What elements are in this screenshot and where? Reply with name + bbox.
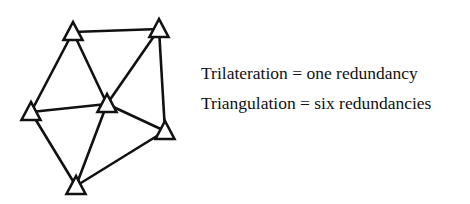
survey-network-diagram bbox=[0, 0, 200, 204]
edge-D-F bbox=[76, 104, 107, 186]
edge-B-E bbox=[159, 29, 165, 131]
trilateration-caption: Trilateration = one redundancy bbox=[201, 63, 418, 84]
edge-C-D bbox=[31, 104, 107, 112]
station-triangle-icon bbox=[156, 121, 175, 139]
edge-B-D bbox=[107, 29, 159, 104]
station-triangle-icon bbox=[98, 94, 117, 112]
edge-E-F bbox=[76, 131, 165, 186]
network-edges bbox=[31, 29, 165, 186]
edge-A-B bbox=[73, 29, 159, 32]
station-triangle-icon bbox=[67, 176, 86, 194]
station-triangles bbox=[22, 19, 175, 194]
triangulation-caption: Triangulation = six redundancies bbox=[201, 93, 431, 114]
edge-A-C bbox=[31, 32, 73, 112]
edge-C-F bbox=[31, 112, 76, 186]
edge-A-D bbox=[73, 32, 107, 104]
